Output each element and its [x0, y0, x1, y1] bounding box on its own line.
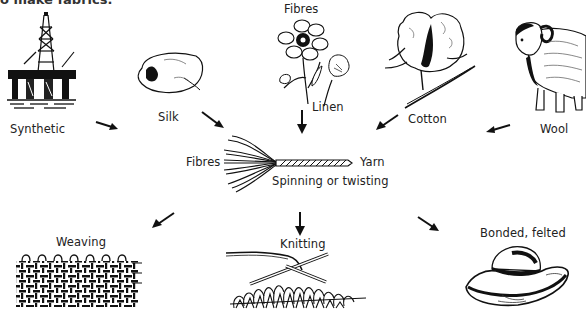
flax-flower-icon [270, 18, 360, 108]
source-label-linen: Linen [312, 100, 344, 114]
source-label-wool: Wool [540, 122, 568, 136]
source-label-silk: Silk [158, 110, 179, 124]
arrow-linen-to-yarn [296, 110, 308, 134]
woven-fabric-icon [12, 253, 142, 309]
arrow-cotton-to-yarn [376, 115, 398, 131]
process-step-label: Spinning or twisting [272, 174, 389, 188]
process-input-label: Fibres [186, 155, 220, 169]
knitting-needles-icon [226, 248, 371, 310]
caption-fragment: o make fabrics. [0, 0, 112, 7]
oil-rig-icon [4, 12, 79, 112]
arrow-yarn-to-weaving [152, 213, 174, 229]
cotton-boll-icon [375, 8, 475, 110]
arrow-silk-to-yarn [202, 110, 226, 130]
output-label-bonded: Bonded, felted [480, 226, 566, 240]
felt-hat-icon [462, 245, 572, 307]
arrow-wool-to-yarn [486, 124, 510, 134]
arrow-yarn-to-knitting [294, 212, 306, 236]
process-output-label: Yarn [360, 155, 385, 169]
source-group-label-fibres: Fibres [284, 2, 318, 16]
source-label-synthetic: Synthetic [10, 122, 65, 136]
sheep-icon [512, 18, 586, 118]
arrow-synthetic-to-yarn [96, 120, 120, 132]
output-label-weaving: Weaving [56, 235, 106, 249]
source-label-cotton: Cotton [408, 112, 447, 126]
silk-cocoon-icon [134, 48, 206, 98]
arrow-yarn-to-bonded [418, 216, 440, 232]
